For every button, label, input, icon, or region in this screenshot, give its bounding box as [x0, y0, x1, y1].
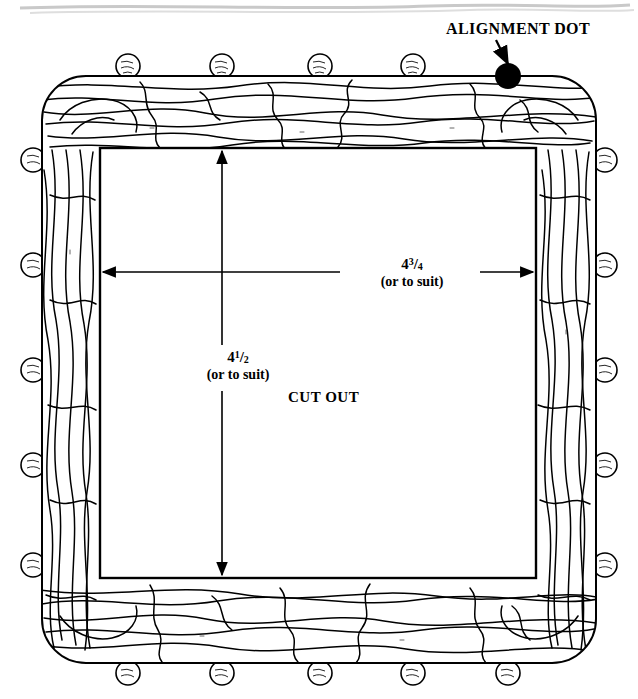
scan-artifact-band: [20, 5, 634, 13]
dimension-vertical-label: 41/2 (or to suit): [178, 349, 298, 383]
dimension-horizontal-value: 43/4: [401, 256, 423, 272]
cutout-rect: [100, 148, 536, 578]
dimension-horizontal-note: (or to suit): [381, 274, 444, 289]
alignment-dot: [495, 63, 521, 89]
dimension-vertical-value: 41/2: [227, 349, 249, 365]
alignment-dot-label: ALIGNMENT DOT: [446, 20, 590, 38]
alignment-dot-leader-arrow: [496, 40, 508, 64]
bump-top: [116, 54, 425, 78]
diagram-page: ALIGNMENT DOT 43/4 (or to suit) 41/2 (or…: [0, 0, 638, 699]
cutout-label: CUT OUT: [288, 389, 359, 406]
dimension-horizontal-label: 43/4 (or to suit): [352, 256, 472, 290]
bump-bottom: [116, 661, 520, 685]
dimension-vertical-note: (or to suit): [207, 367, 270, 382]
panel-diagram: [0, 0, 638, 699]
